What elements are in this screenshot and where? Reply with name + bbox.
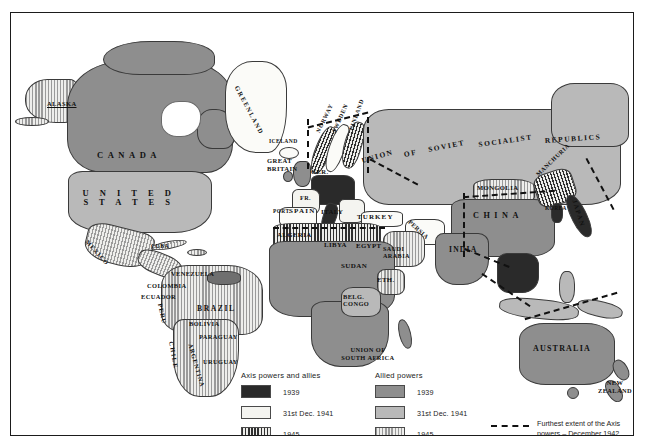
region-aleutians bbox=[15, 117, 49, 126]
label-ussr-w4: SOCIALIST bbox=[478, 133, 533, 148]
legend-axis-heading: Axis powers and allies bbox=[241, 371, 321, 380]
legend-swatch-allied-1941 bbox=[375, 406, 405, 419]
region-greenland bbox=[225, 61, 287, 153]
axis-extent-key-line1: Furthest extent of the Axis bbox=[537, 419, 620, 428]
region-ireland bbox=[283, 171, 293, 182]
region-philippines bbox=[559, 271, 575, 303]
label-ussr-w5: REPUBLICS bbox=[544, 133, 601, 145]
map-frame: ALASKA CANADA U N I T E D S T A T E S GR… bbox=[10, 12, 634, 436]
map-legend: Axis powers and allies 1939 31st Dec. 19… bbox=[229, 371, 529, 436]
axis-extent-dash-sample bbox=[491, 425, 529, 427]
legend-swatch-allied-1945 bbox=[375, 427, 405, 436]
world-war-two-map: ALASKA CANADA U N I T E D S T A T E S GR… bbox=[0, 0, 646, 448]
region-venezuela-shading bbox=[207, 271, 241, 285]
axis-extent-line-scandinavia bbox=[307, 119, 309, 169]
axis-extent-line-africa bbox=[273, 227, 385, 229]
region-hispaniola bbox=[187, 249, 207, 256]
legend-swatch-allied-1939 bbox=[375, 385, 405, 398]
region-tasmania bbox=[567, 387, 579, 399]
legend-swatch-axis-1941 bbox=[241, 406, 271, 419]
axis-extent-key-text: Furthest extent of the Axis powers – Dec… bbox=[537, 419, 634, 436]
legend-label-allied-1939: 1939 bbox=[417, 388, 434, 397]
label-ussr-w3: SOVIET bbox=[428, 139, 466, 154]
legend-label-axis-1941: 31st Dec. 1941 bbox=[283, 409, 333, 418]
region-united-states bbox=[68, 171, 212, 233]
label-soviet-union: UNION OF SOVIET SOCIALIST REPUBLICS bbox=[363, 133, 613, 173]
axis-extent-key-line2: powers – December 1942 bbox=[537, 429, 619, 436]
region-iceland bbox=[279, 147, 299, 159]
legend-swatch-axis-1945 bbox=[241, 427, 271, 436]
legend-label-allied-1945: 1945 bbox=[417, 430, 434, 436]
legend-label-allied-1941: 31st Dec. 1941 bbox=[417, 409, 467, 418]
region-canada-arctic-islands bbox=[103, 41, 215, 75]
region-india bbox=[435, 233, 489, 285]
legend-label-axis-1945: 1945 bbox=[283, 430, 300, 436]
region-belgian-congo bbox=[341, 287, 381, 317]
region-ethiopia bbox=[377, 269, 405, 295]
legend-allied-heading: Allied powers bbox=[375, 371, 423, 380]
legend-swatch-axis-1939 bbox=[241, 385, 271, 398]
region-korea bbox=[551, 203, 563, 223]
legend-label-axis-1939: 1939 bbox=[283, 388, 300, 397]
region-australia bbox=[519, 323, 615, 385]
label-ussr-w1: UNION bbox=[361, 148, 395, 164]
hudson-bay bbox=[161, 101, 201, 137]
label-ussr-w2: OF bbox=[403, 148, 418, 159]
